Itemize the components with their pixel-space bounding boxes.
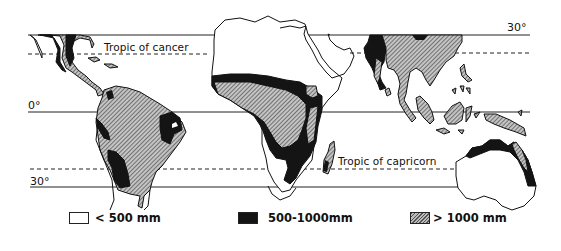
lat-30n-label: 30° — [507, 21, 527, 34]
tropic-capricorn-label: Tropic of capricorn — [338, 155, 437, 167]
legend-item-moderate: 500-1000mm — [238, 211, 353, 225]
equator-label: 0° — [28, 99, 41, 112]
new-guinea — [484, 110, 526, 136]
map-legend: < 500 mm 500-1000mm > 1000 mm — [0, 211, 561, 231]
legend-label-wet: > 1000 mm — [433, 211, 507, 225]
legend-label-dry: < 500 mm — [95, 211, 161, 225]
legend-item-wet: > 1000 mm — [410, 211, 507, 225]
south-america — [96, 86, 186, 210]
australia — [456, 140, 536, 210]
tropic-cancer-label: Tropic of cancer — [104, 41, 189, 53]
lat-30s-label: 30° — [30, 175, 50, 188]
africa — [212, 16, 342, 192]
legend-swatch-black — [238, 212, 258, 224]
legend-swatch-white — [69, 212, 89, 224]
legend-swatch-hatched — [410, 212, 430, 224]
legend-item-dry: < 500 mm — [69, 211, 161, 225]
legend-label-moderate: 500-1000mm — [268, 211, 353, 225]
